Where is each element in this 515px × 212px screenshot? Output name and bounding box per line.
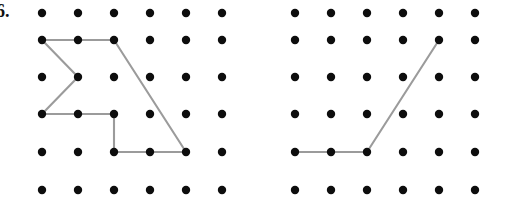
geoboard-peg[interactable]	[74, 73, 82, 81]
geoboard-peg[interactable]	[399, 73, 407, 81]
geoboard-peg[interactable]	[146, 73, 154, 81]
geoboard-peg[interactable]	[218, 36, 226, 44]
geoboard-peg[interactable]	[471, 9, 479, 17]
geoboard-peg[interactable]	[399, 36, 407, 44]
geoboard-peg[interactable]	[218, 148, 226, 156]
geoboard-peg[interactable]	[218, 186, 226, 194]
geoboard-peg[interactable]	[38, 148, 46, 156]
geoboard-peg[interactable]	[435, 148, 443, 156]
geoboard-peg[interactable]	[110, 110, 118, 118]
geoboard-peg[interactable]	[110, 9, 118, 17]
geoboard-peg[interactable]	[146, 110, 154, 118]
geoboard-peg[interactable]	[74, 110, 82, 118]
geoboard-peg[interactable]	[327, 186, 335, 194]
geoboard-peg[interactable]	[218, 9, 226, 17]
geoboard-peg[interactable]	[471, 148, 479, 156]
geoboard-peg[interactable]	[182, 73, 190, 81]
geoboard-peg[interactable]	[218, 110, 226, 118]
geoboard-peg[interactable]	[399, 148, 407, 156]
geoboard-peg[interactable]	[74, 186, 82, 194]
geoboard-canvas	[0, 0, 515, 212]
geoboard-peg[interactable]	[471, 73, 479, 81]
geoboard-peg[interactable]	[291, 110, 299, 118]
geoboard-peg[interactable]	[146, 148, 154, 156]
geoboard-peg[interactable]	[435, 186, 443, 194]
left-figure-segment	[114, 40, 186, 152]
geoboard-peg[interactable]	[38, 9, 46, 17]
geoboard-peg[interactable]	[327, 73, 335, 81]
geoboard-peg[interactable]	[363, 110, 371, 118]
geoboard-peg[interactable]	[291, 36, 299, 44]
geoboard-peg[interactable]	[146, 9, 154, 17]
geoboard-peg[interactable]	[182, 36, 190, 44]
geoboard-peg[interactable]	[399, 9, 407, 17]
right-figure-segment	[367, 40, 439, 152]
geoboard-peg[interactable]	[74, 36, 82, 44]
geoboard-peg[interactable]	[146, 186, 154, 194]
geoboard-peg[interactable]	[38, 110, 46, 118]
geoboard-peg[interactable]	[38, 36, 46, 44]
geoboard-peg[interactable]	[435, 73, 443, 81]
geoboard-peg[interactable]	[291, 9, 299, 17]
geoboard-peg[interactable]	[110, 148, 118, 156]
geoboard-peg[interactable]	[435, 36, 443, 44]
geoboard-peg[interactable]	[435, 110, 443, 118]
geoboard-peg[interactable]	[38, 186, 46, 194]
geoboard-peg[interactable]	[182, 148, 190, 156]
geoboard-peg[interactable]	[182, 186, 190, 194]
left-geoboard	[38, 9, 226, 194]
right-geoboard	[291, 9, 479, 194]
geoboard-peg[interactable]	[363, 36, 371, 44]
geoboard-peg[interactable]	[110, 36, 118, 44]
geoboard-peg[interactable]	[291, 148, 299, 156]
geoboard-peg[interactable]	[363, 148, 371, 156]
geoboard-peg[interactable]	[110, 186, 118, 194]
geoboard-peg[interactable]	[399, 186, 407, 194]
geoboard-peg[interactable]	[327, 9, 335, 17]
geoboard-peg[interactable]	[327, 148, 335, 156]
left-figure-segment	[42, 77, 78, 114]
geoboard-peg[interactable]	[38, 73, 46, 81]
geoboard-peg[interactable]	[435, 9, 443, 17]
geoboard-peg[interactable]	[146, 36, 154, 44]
geoboard-worksheet: 6.	[0, 0, 515, 212]
geoboard-peg[interactable]	[291, 186, 299, 194]
geoboard-peg[interactable]	[471, 36, 479, 44]
geoboard-peg[interactable]	[363, 186, 371, 194]
geoboard-peg[interactable]	[363, 9, 371, 17]
geoboard-peg[interactable]	[327, 36, 335, 44]
geoboard-peg[interactable]	[291, 73, 299, 81]
left-figure-segment	[42, 40, 78, 77]
geoboard-peg[interactable]	[182, 9, 190, 17]
geoboard-peg[interactable]	[110, 73, 118, 81]
geoboard-peg[interactable]	[327, 110, 335, 118]
geoboard-peg[interactable]	[218, 73, 226, 81]
geoboard-peg[interactable]	[182, 110, 190, 118]
geoboard-peg[interactable]	[471, 110, 479, 118]
geoboard-peg[interactable]	[74, 148, 82, 156]
geoboard-peg[interactable]	[74, 9, 82, 17]
geoboard-peg[interactable]	[471, 186, 479, 194]
geoboard-peg[interactable]	[363, 73, 371, 81]
geoboard-peg[interactable]	[399, 110, 407, 118]
